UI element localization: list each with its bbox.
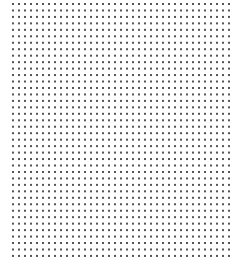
grid-dot (228, 229, 230, 231)
grid-dot (54, 35, 56, 37)
grid-dot (36, 42, 38, 44)
grid-dot (84, 248, 86, 250)
grid-dot (24, 100, 26, 102)
grid-dot (150, 81, 152, 83)
grid-dot (90, 223, 92, 225)
grid-dot (54, 184, 56, 186)
grid-dot (96, 190, 98, 192)
grid-dot (108, 3, 110, 5)
grid-dot (30, 3, 32, 5)
grid-dot (162, 255, 164, 257)
grid-dot (54, 190, 56, 192)
grid-dot (12, 93, 14, 95)
grid-dot (144, 223, 146, 225)
grid-dot (84, 184, 86, 186)
grid-dot (168, 242, 170, 244)
grid-dot (30, 42, 32, 44)
grid-dot (186, 3, 188, 5)
grid-dot (132, 81, 134, 83)
grid-dot (78, 132, 80, 134)
grid-dot (198, 113, 200, 115)
grid-dot (42, 119, 44, 121)
grid-dot (204, 106, 206, 108)
grid-dot (48, 16, 50, 18)
grid-dot (12, 119, 14, 121)
grid-dot (174, 42, 176, 44)
grid-dot (144, 9, 146, 11)
grid-dot (12, 165, 14, 167)
grid-dot (144, 145, 146, 147)
grid-dot (126, 87, 128, 89)
grid-dot (78, 22, 80, 24)
grid-dot (24, 165, 26, 167)
grid-dot (96, 197, 98, 199)
grid-dot (192, 29, 194, 31)
grid-dot (114, 42, 116, 44)
grid-dot (138, 42, 140, 44)
grid-dot (30, 223, 32, 225)
grid-dot (144, 229, 146, 231)
grid-dot (72, 42, 74, 44)
grid-dot (48, 223, 50, 225)
grid-dot (156, 177, 158, 179)
grid-dot (156, 68, 158, 70)
grid-dot (204, 210, 206, 212)
grid-dot (180, 145, 182, 147)
grid-dot (102, 139, 104, 141)
grid-dot (78, 87, 80, 89)
grid-dot (120, 216, 122, 218)
grid-dot (42, 216, 44, 218)
grid-dot (120, 236, 122, 238)
grid-dot (210, 61, 212, 63)
grid-dot (108, 61, 110, 63)
grid-dot (174, 184, 176, 186)
grid-dot (138, 223, 140, 225)
grid-dot (72, 87, 74, 89)
grid-dot (108, 9, 110, 11)
grid-dot (78, 190, 80, 192)
grid-dot (174, 132, 176, 134)
grid-dot (102, 158, 104, 160)
grid-dot (42, 74, 44, 76)
grid-dot (156, 158, 158, 160)
grid-dot (78, 16, 80, 18)
grid-dot (204, 171, 206, 173)
grid-dot (120, 223, 122, 225)
grid-dot (108, 242, 110, 244)
grid-dot (186, 165, 188, 167)
grid-dot (126, 145, 128, 147)
grid-dot (66, 119, 68, 121)
grid-dot (114, 158, 116, 160)
grid-dot (24, 171, 26, 173)
grid-dot (24, 81, 26, 83)
grid-dot (204, 93, 206, 95)
grid-dot (78, 223, 80, 225)
grid-dot (192, 236, 194, 238)
grid-dot (114, 68, 116, 70)
grid-dot (186, 132, 188, 134)
grid-dot (42, 242, 44, 244)
grid-dot (180, 87, 182, 89)
grid-dot (96, 22, 98, 24)
grid-dot (156, 113, 158, 115)
grid-dot (144, 190, 146, 192)
grid-dot (162, 248, 164, 250)
grid-dot (42, 29, 44, 31)
grid-dot (180, 248, 182, 250)
grid-dot (168, 158, 170, 160)
grid-dot (204, 74, 206, 76)
grid-dot (222, 22, 224, 24)
grid-dot (186, 61, 188, 63)
grid-dot (228, 216, 230, 218)
grid-dot (96, 9, 98, 11)
grid-dot (96, 100, 98, 102)
grid-dot (216, 203, 218, 205)
grid-dot (36, 197, 38, 199)
grid-dot (96, 87, 98, 89)
grid-dot (210, 100, 212, 102)
grid-dot (228, 223, 230, 225)
grid-dot (60, 61, 62, 63)
grid-dot (138, 145, 140, 147)
grid-dot (42, 184, 44, 186)
grid-dot (72, 152, 74, 154)
